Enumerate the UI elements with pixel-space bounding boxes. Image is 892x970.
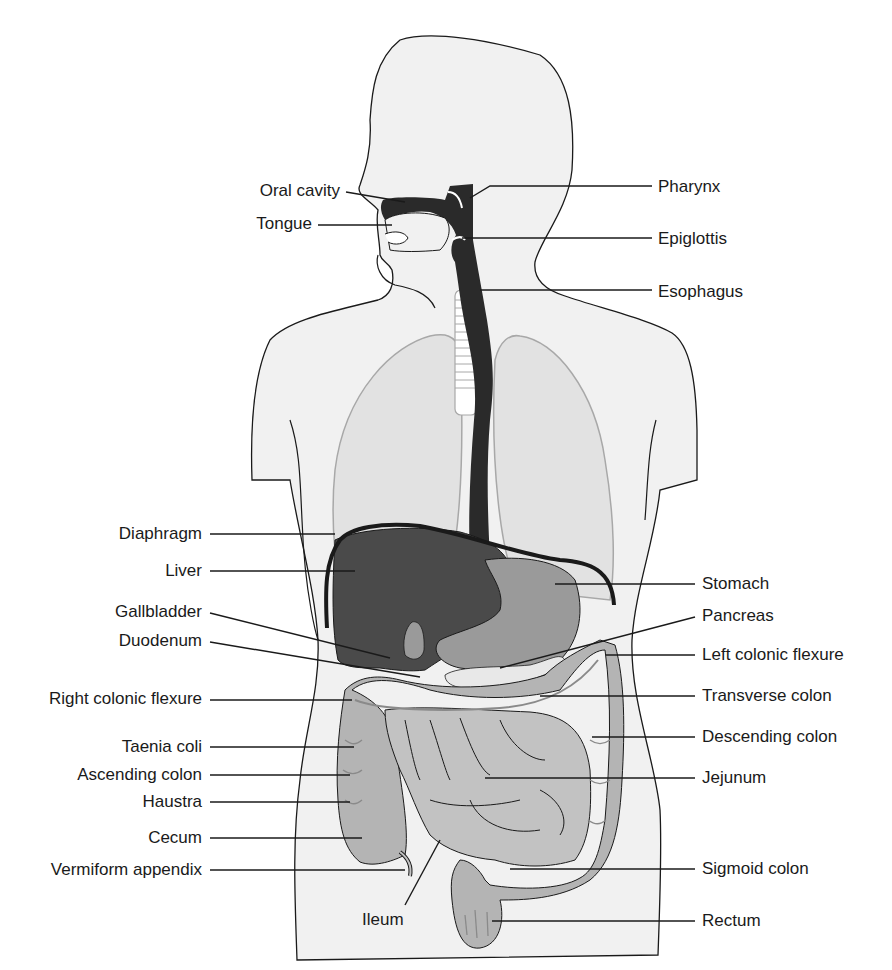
- label-ileum: Ileum: [362, 910, 404, 930]
- label-right-colonic-flexure: Right colonic flexure: [49, 689, 202, 709]
- label-duodenum: Duodenum: [119, 631, 202, 651]
- label-pancreas: Pancreas: [702, 606, 774, 626]
- label-descending-colon: Descending colon: [702, 727, 837, 747]
- digestive-system-diagram: Oral cavity Tongue Diaphragm Liver Gallb…: [0, 0, 892, 970]
- label-cecum: Cecum: [148, 828, 202, 848]
- label-oral-cavity: Oral cavity: [260, 181, 340, 201]
- label-esophagus: Esophagus: [658, 282, 743, 302]
- lips: [385, 232, 408, 244]
- label-left-colonic-flexure: Left colonic flexure: [702, 645, 844, 665]
- anatomy-illustration: [0, 0, 892, 970]
- label-vermiform-appendix: Vermiform appendix: [51, 860, 202, 880]
- label-diaphragm: Diaphragm: [119, 524, 202, 544]
- label-sigmoid-colon: Sigmoid colon: [702, 859, 809, 879]
- label-haustra: Haustra: [142, 792, 202, 812]
- label-gallbladder: Gallbladder: [115, 602, 202, 622]
- label-pharynx: Pharynx: [658, 177, 720, 197]
- label-liver: Liver: [165, 561, 202, 581]
- label-epiglottis: Epiglottis: [658, 229, 727, 249]
- label-stomach: Stomach: [702, 574, 769, 594]
- label-transverse-colon: Transverse colon: [702, 686, 832, 706]
- label-ascending-colon: Ascending colon: [77, 765, 202, 785]
- label-rectum: Rectum: [702, 911, 761, 931]
- label-jejunum: Jejunum: [702, 768, 766, 788]
- label-tongue: Tongue: [256, 214, 312, 234]
- label-taenia-coli: Taenia coli: [122, 737, 202, 757]
